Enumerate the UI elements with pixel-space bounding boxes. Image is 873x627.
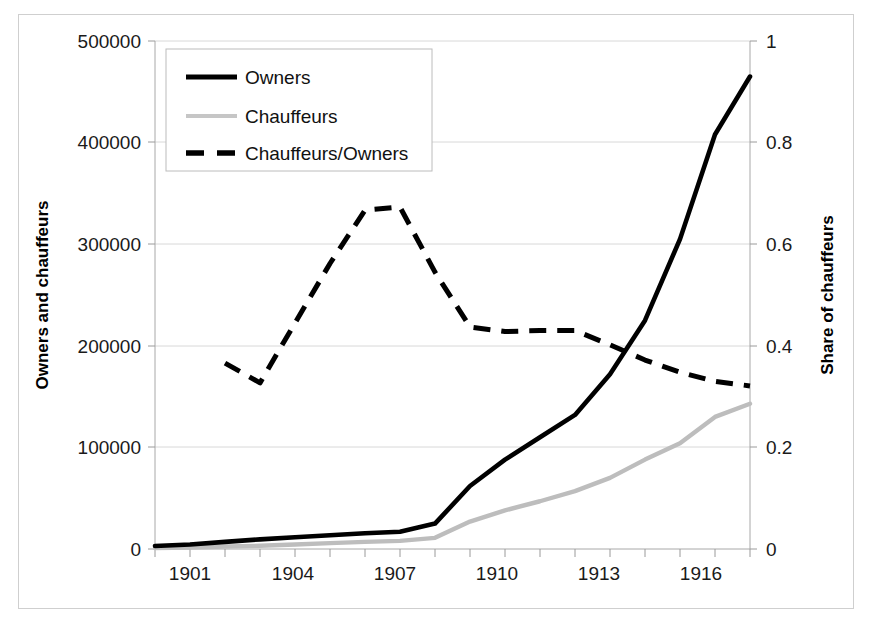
legend-label-chauffeurs: Chauffeurs xyxy=(245,106,338,127)
x-axis-tick-labels: 1901 1904 1907 1910 1913 1916 xyxy=(169,563,722,584)
left-axis-ticks xyxy=(148,41,155,549)
x-tick-label: 1907 xyxy=(374,563,416,584)
y-tick-label: 200000 xyxy=(78,336,141,357)
left-axis-tick-labels: 500000 400000 300000 200000 100000 0 xyxy=(78,31,141,560)
legend-label-ratio: Chauffeurs/Owners xyxy=(245,143,408,164)
x-tick-label: 1916 xyxy=(680,563,722,584)
x-axis-ticks xyxy=(155,549,750,557)
chart-svg: 500000 400000 300000 200000 100000 0 1 0… xyxy=(0,0,873,627)
chart-figure: 500000 400000 300000 200000 100000 0 1 0… xyxy=(0,0,873,627)
x-tick-label: 1910 xyxy=(476,563,518,584)
plot-area-wrapper: 500000 400000 300000 200000 100000 0 1 0… xyxy=(0,0,873,627)
x-tick-label: 1901 xyxy=(169,563,211,584)
y-tick-label: 300000 xyxy=(78,234,141,255)
y-tick-label: 400000 xyxy=(78,132,141,153)
y2-tick-label: 0.2 xyxy=(766,437,792,458)
y-tick-label: 0 xyxy=(130,539,141,560)
legend: Owners Chauffeurs Chauffeurs/Owners xyxy=(166,49,432,171)
right-axis-ticks xyxy=(750,41,757,549)
y2-tick-label: 0.6 xyxy=(766,234,792,255)
y2-axis-title: Share of chauffeurs xyxy=(818,215,837,375)
right-axis-tick-labels: 1 0.8 0.6 0.4 0.2 0 xyxy=(766,31,793,560)
y-tick-label: 500000 xyxy=(78,31,141,52)
y2-tick-label: 1 xyxy=(766,31,777,52)
x-tick-label: 1913 xyxy=(578,563,620,584)
y-axis-title: Owners and chauffeurs xyxy=(33,201,52,390)
x-tick-label: 1904 xyxy=(272,563,315,584)
y2-tick-label: 0 xyxy=(766,539,777,560)
y2-tick-label: 0.8 xyxy=(766,132,792,153)
y-tick-label: 100000 xyxy=(78,437,141,458)
legend-label-owners: Owners xyxy=(245,67,310,88)
y2-tick-label: 0.4 xyxy=(766,336,793,357)
